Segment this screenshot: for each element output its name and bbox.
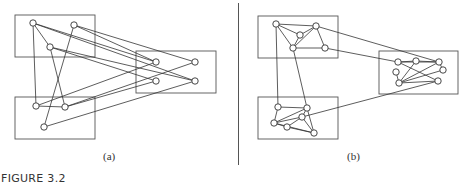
graph-edge bbox=[50, 47, 195, 81]
graph-edge bbox=[74, 25, 156, 62]
graph-node bbox=[311, 130, 317, 136]
graph-node bbox=[304, 105, 310, 111]
graph-edge bbox=[36, 106, 65, 107]
graph-node bbox=[313, 23, 319, 29]
cluster-box bbox=[15, 15, 95, 57]
graph-node bbox=[271, 120, 277, 126]
graph-node bbox=[413, 58, 419, 64]
graph-edge bbox=[278, 107, 307, 108]
graph-node bbox=[435, 78, 441, 84]
graph-edge bbox=[33, 23, 50, 47]
panel-a-caption: (a) bbox=[103, 150, 115, 162]
graph-edge bbox=[50, 47, 156, 81]
graph-node bbox=[33, 103, 39, 109]
graph-edge bbox=[36, 62, 156, 106]
graph-edge bbox=[65, 81, 156, 107]
panel-divider bbox=[238, 3, 239, 165]
graph-edge bbox=[44, 25, 74, 127]
graph-node bbox=[436, 59, 442, 65]
graph-node bbox=[41, 124, 47, 130]
graph-edge bbox=[65, 62, 195, 107]
graph-edge bbox=[74, 25, 195, 62]
graph-node bbox=[322, 45, 328, 51]
graph-node bbox=[440, 67, 446, 73]
graph-node bbox=[395, 59, 401, 65]
figure-diagram bbox=[0, 0, 468, 189]
graph-node bbox=[192, 78, 198, 84]
graph-node bbox=[275, 104, 281, 110]
graph-node bbox=[299, 114, 305, 120]
graph-node bbox=[71, 22, 77, 28]
panel-b-graph bbox=[258, 16, 458, 139]
graph-node bbox=[297, 32, 303, 38]
graph-edge bbox=[293, 26, 316, 48]
graph-edge bbox=[33, 23, 195, 81]
graph-edge bbox=[325, 48, 398, 62]
panel-a-graph bbox=[15, 15, 216, 139]
graph-edge bbox=[33, 23, 156, 62]
panel-b-caption: (b) bbox=[347, 150, 360, 162]
graph-node bbox=[284, 124, 290, 130]
graph-edge bbox=[276, 24, 278, 107]
graph-node bbox=[393, 69, 399, 75]
graph-edge bbox=[293, 48, 307, 108]
graph-node bbox=[30, 20, 36, 26]
figure-label: FIGURE 3.2 bbox=[1, 172, 66, 185]
cluster-box bbox=[15, 97, 95, 139]
graph-node bbox=[290, 45, 296, 51]
graph-edge bbox=[302, 81, 438, 117]
graph-edge bbox=[307, 108, 314, 133]
graph-node bbox=[153, 59, 159, 65]
graph-edge bbox=[33, 23, 36, 106]
graph-edge bbox=[398, 62, 438, 81]
graph-node bbox=[273, 21, 279, 27]
graph-node bbox=[396, 80, 402, 86]
graph-node bbox=[153, 78, 159, 84]
graph-edge bbox=[316, 26, 439, 62]
graph-node bbox=[47, 44, 53, 50]
graph-node bbox=[62, 104, 68, 110]
graph-edge bbox=[276, 24, 316, 26]
graph-edge bbox=[399, 61, 416, 83]
graph-node bbox=[192, 59, 198, 65]
